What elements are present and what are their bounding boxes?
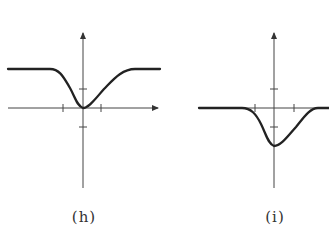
curve-i [199, 108, 329, 146]
panel-label-h: (h) [72, 208, 96, 226]
panel-i [199, 33, 329, 188]
panel-label-i: (i) [265, 208, 285, 226]
panel-h [8, 33, 160, 188]
figure-canvas [0, 0, 329, 230]
